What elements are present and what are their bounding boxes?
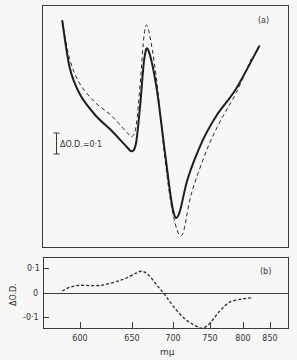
series-difference-b: [62, 271, 251, 328]
panel-a-frame: [43, 6, 289, 248]
xtick-label-700: 700: [165, 334, 180, 343]
xtick-label-600: 600: [72, 334, 87, 343]
xtick-label-800: 800: [235, 334, 250, 343]
panel-a-label: (a): [258, 16, 269, 25]
scale-bar-label: ΔO.D.=0·1: [60, 140, 102, 149]
ytick-label-zero: 0: [33, 289, 38, 298]
panel-a: (a) ΔO.D.=0·1: [43, 6, 289, 248]
xtick-label-650: 650: [124, 334, 139, 343]
panel-b: (b) 0·1 0 -0·1 ΔO.D. 600650700750800850 …: [9, 258, 289, 358]
series-solid-a: [62, 21, 259, 218]
panel-b-label: (b): [260, 267, 271, 276]
ytick-label-neg: -0·1: [23, 313, 39, 322]
xtick-label-750: 750: [202, 334, 217, 343]
xtick-label-850: 850: [262, 334, 277, 343]
series-dashed-a: [62, 21, 251, 236]
y-axis-label: ΔO.D.: [9, 283, 18, 306]
x-axis-label: mμ: [160, 347, 175, 357]
scale-bar: ΔO.D.=0·1: [54, 133, 103, 154]
spectrum-figure: (a) ΔO.D.=0·1 (b) 0·1 0 -0·1 ΔO.D. 60065…: [0, 0, 297, 360]
chart-svg: (a) ΔO.D.=0·1 (b) 0·1 0 -0·1 ΔO.D. 60065…: [0, 0, 297, 360]
x-ticks: 600650700750800850: [72, 322, 277, 343]
ytick-label-pos: 0·1: [27, 264, 40, 273]
